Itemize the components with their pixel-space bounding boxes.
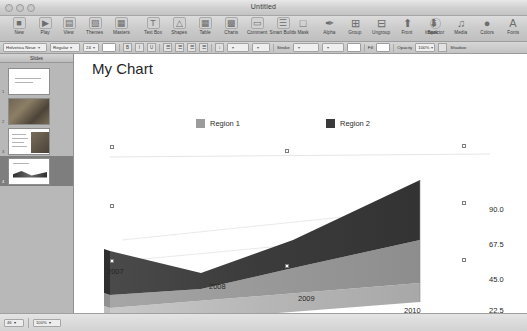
- media-icon: ♫: [455, 17, 468, 29]
- italic-button[interactable]: I: [135, 43, 144, 52]
- align-left-button[interactable]: ☰: [163, 43, 172, 52]
- charts-icon: ▩: [225, 17, 238, 29]
- slide-thumbnail-2[interactable]: 2: [0, 96, 73, 126]
- font-family-value: Helvetica Neue: [6, 45, 36, 50]
- selection-handle-bottom-left[interactable]: [110, 259, 114, 263]
- legend-item-region-1[interactable]: Region 1: [196, 119, 240, 128]
- toolbar-group-appearance: ▤ View ▧ Themes ▦ Masters: [56, 17, 134, 35]
- opacity-value: 100%: [418, 45, 429, 50]
- font-style-select[interactable]: Regular ▾: [50, 43, 80, 52]
- bold-button[interactable]: B: [123, 43, 132, 52]
- legend-label: Region 1: [210, 119, 240, 128]
- fill-label: Fill: [368, 45, 374, 50]
- toolbar-button-colors[interactable]: ● Colors: [474, 17, 500, 35]
- align-right-button[interactable]: ☰: [187, 43, 196, 52]
- toolbar-button-text-box[interactable]: T Text Box: [140, 17, 166, 35]
- toolbar-button-view[interactable]: ▤ View: [56, 17, 82, 35]
- chevron-down-icon: ▾: [38, 46, 40, 50]
- toolbar-label-alpha: Alpha: [323, 30, 335, 36]
- slide-size-control[interactable]: 46 ▾: [4, 319, 24, 327]
- selection-handle-bottom-right[interactable]: [462, 258, 466, 262]
- stroke-style-select[interactable]: ▾: [293, 43, 319, 52]
- toolbar-button-front[interactable]: ⬆ Front: [394, 17, 420, 35]
- toolbar-button-new[interactable]: ■ New: [6, 17, 32, 35]
- selection-handle-middle-right[interactable]: [462, 201, 466, 205]
- slide-navigator[interactable]: 1 2 3: [0, 63, 73, 186]
- toolbar-group-insert: T Text Box △ Shapes ▦ Table ▩ Charts ▭ C…: [140, 17, 296, 35]
- toolbar-button-fonts[interactable]: A Fonts: [500, 17, 526, 35]
- toolbar-label-themes: Themes: [87, 30, 104, 36]
- toolbar-label-fonts: Fonts: [507, 30, 519, 36]
- x-tick-label: 2010: [404, 306, 421, 313]
- toolbar-button-alpha[interactable]: ✒ Alpha: [316, 17, 342, 35]
- slide-thumbnail-1[interactable]: 1: [0, 66, 73, 96]
- text-color-swatch[interactable]: [102, 43, 116, 52]
- zoom-control[interactable]: 100% ▾: [33, 319, 61, 327]
- mask-icon: □: [297, 17, 310, 29]
- y-tick-label: 90.0: [489, 205, 504, 214]
- chevron-down-icon: ▾: [49, 321, 51, 325]
- font-size-select[interactable]: 24 ▾: [83, 43, 99, 52]
- selection-handle-top-left[interactable]: [110, 145, 114, 149]
- chart-object[interactable]: 90.0 67.5 45.0 22.5 0 2007 2008 2009 201…: [74, 54, 527, 313]
- window-title-bar: Untitled: [0, 0, 527, 16]
- slide-number: 4: [2, 179, 4, 184]
- underline-button[interactable]: U: [147, 43, 156, 52]
- comment-icon: ▭: [251, 17, 264, 29]
- legend-item-region-2[interactable]: Region 2: [326, 119, 370, 128]
- toolbar-button-ungroup[interactable]: ⊟ Ungroup: [368, 17, 394, 35]
- inspector-icon: ⓘ: [429, 17, 442, 29]
- toolbar-button-play[interactable]: ▶ Play: [32, 17, 58, 35]
- toolbar-button-table[interactable]: ▦ Table: [192, 17, 218, 35]
- ungroup-icon: ⊟: [375, 17, 388, 29]
- x-tick-label: 2007: [107, 267, 124, 276]
- divider: [28, 318, 29, 328]
- slide-thumbnail-3[interactable]: 3: [0, 126, 73, 156]
- chevron-down-icon: ▾: [232, 46, 234, 50]
- slide-canvas[interactable]: My Chart: [74, 54, 527, 313]
- toolbar-button-group[interactable]: ⊞ Group: [342, 17, 368, 35]
- toolbar-button-comment[interactable]: ▭ Comment: [244, 17, 270, 35]
- stroke-width-select[interactable]: ▾: [322, 43, 344, 52]
- toolbar-button-media[interactable]: ♫ Media: [448, 17, 474, 35]
- toolbar-button-mask[interactable]: □ Mask: [290, 17, 316, 35]
- selection-handle-bottom-center[interactable]: [285, 264, 289, 268]
- columns-select[interactable]: ▾: [252, 43, 270, 52]
- format-bar: Helvetica Neue ▾ Regular ▾ 24 ▾ B I U ☰ …: [0, 42, 527, 54]
- legend-swatch-icon: [326, 119, 335, 128]
- toolbar-label-view: View: [64, 30, 74, 36]
- font-family-select[interactable]: Helvetica Neue ▾: [3, 43, 47, 52]
- align-justify-button[interactable]: ☰: [199, 43, 208, 52]
- toolbar-group-utilities: ⓘ Inspector ♫ Media ● Colors A Fonts ▤ F…: [422, 17, 527, 35]
- slide-thumbnail-4[interactable]: 4: [0, 156, 73, 186]
- toolbar-label-group: Group: [348, 30, 361, 36]
- toolbar-button-charts[interactable]: ▩ Charts: [218, 17, 244, 35]
- shadow-checkbox[interactable]: [438, 43, 447, 52]
- x-tick-label: 2008: [209, 282, 226, 291]
- play-icon: ▶: [39, 17, 52, 29]
- font-style-value: Regular: [53, 45, 68, 50]
- group-icon: ⊞: [349, 17, 362, 29]
- stroke-label: Stroke: [277, 45, 290, 50]
- chevron-down-icon: ▾: [431, 46, 433, 50]
- alpha-icon: ✒: [323, 17, 336, 29]
- spacing-select[interactable]: ▾: [227, 43, 249, 52]
- toolbar-button-masters[interactable]: ▦ Masters: [108, 17, 134, 35]
- stroke-color-swatch[interactable]: [347, 43, 361, 52]
- selection-handle-top-center[interactable]: [285, 149, 289, 153]
- toolbar-label-media: Media: [455, 30, 468, 36]
- slide-number: 3: [2, 149, 4, 154]
- opacity-select[interactable]: 100% ▾: [415, 43, 435, 52]
- align-center-button[interactable]: ☰: [175, 43, 184, 52]
- selection-handle-top-right[interactable]: [462, 144, 466, 148]
- toolbar-button-themes[interactable]: ▧ Themes: [82, 17, 108, 35]
- line-spacing-button[interactable]: ↕: [215, 43, 224, 52]
- selection-handle-middle-left[interactable]: [110, 204, 114, 208]
- fill-color-swatch[interactable]: [376, 43, 390, 52]
- toolbar-button-inspector[interactable]: ⓘ Inspector: [422, 17, 448, 35]
- toolbar-label-ungroup: Ungroup: [372, 30, 390, 36]
- toolbar-label-new: New: [14, 30, 23, 36]
- toolbar-button-shapes[interactable]: △ Shapes: [166, 17, 192, 35]
- shadow-label: Shadow: [450, 45, 466, 50]
- divider: [119, 44, 120, 52]
